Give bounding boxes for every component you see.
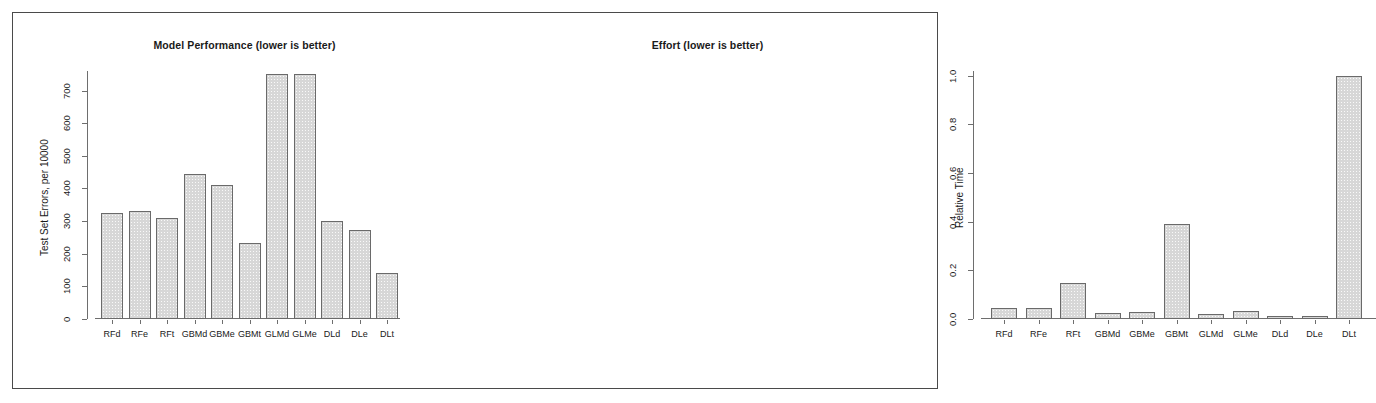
y-axis-tick-label: 300 — [55, 215, 79, 227]
x-axis-tick-label: DLe — [351, 329, 368, 339]
x-axis-tick-mark — [277, 320, 278, 324]
x-axis-tick-mark — [1280, 320, 1281, 324]
bar — [184, 174, 206, 319]
y-axis-tick-mark — [968, 270, 973, 271]
bar — [129, 211, 151, 319]
y-axis-tick-mark — [82, 286, 87, 287]
y-axis-tick-mark — [82, 123, 87, 124]
bar — [239, 243, 261, 319]
bar — [1026, 308, 1052, 319]
bar — [376, 273, 398, 319]
bar — [321, 221, 343, 319]
x-axis-tick-mark — [250, 320, 251, 324]
x-axis-tick-mark — [1211, 320, 1212, 324]
x-axis-tick-label: GBMe — [209, 329, 235, 339]
bar — [1129, 312, 1155, 319]
x-axis-tick-mark — [1315, 320, 1316, 324]
y-axis-tick-mark — [82, 254, 87, 255]
x-axis-tick-mark — [1004, 320, 1005, 324]
chart-panel-effort: Effort (lower is better) Relative Time R… — [476, 13, 939, 388]
chart-title-model-performance: Model Performance (lower is better) — [13, 39, 476, 51]
x-axis-tick-label: GBMd — [1095, 329, 1121, 339]
y-axis-tick-label: 0.8 — [941, 118, 965, 130]
x-axis-tick-label: RFe — [1030, 329, 1047, 339]
bar — [211, 185, 233, 319]
y-axis-tick: 300 — [82, 221, 87, 222]
y-axis-tick: 0.2 — [968, 270, 973, 271]
y-axis-tick: 1.0 — [968, 76, 973, 77]
x-axis-tick-mark — [1349, 320, 1350, 324]
x-axis-tick-label: GLMd — [265, 329, 290, 339]
y-axis-tick: 700 — [82, 91, 87, 92]
y-axis-tick: 100 — [82, 286, 87, 287]
x-axis-tick-mark — [360, 320, 361, 324]
y-axis-tick-mark — [82, 156, 87, 157]
x-axis-tick-mark — [1039, 320, 1040, 324]
y-axis-tick-mark — [968, 319, 973, 320]
y-axis-tick-label: 500 — [55, 150, 79, 162]
bar-group-model-performance: RFdRFeRFtGBMdGBMeGBMtGLMdGLMeDLdDLeDLt — [95, 71, 400, 319]
y-axis-tick-label: 1.0 — [941, 70, 965, 82]
x-axis-tick-label: RFe — [131, 329, 148, 339]
y-axis-tick-label: 0.4 — [941, 216, 965, 228]
y-axis-tick-mark — [968, 124, 973, 125]
x-axis-tick-mark — [140, 320, 141, 324]
y-axis-tick-mark — [82, 319, 87, 320]
bar — [156, 218, 178, 319]
bar — [101, 213, 123, 319]
y-axis-tick: 200 — [82, 254, 87, 255]
y-axis-tick-mark — [968, 222, 973, 223]
bar — [1198, 314, 1224, 319]
y-axis-tick: 600 — [82, 123, 87, 124]
y-axis-tick-mark — [968, 173, 973, 174]
y-axis-tick-label: 700 — [55, 85, 79, 97]
plot-area-effort: RFdRFeRFtGBMdGBMeGBMtGLMdGLMeDLdDLeDLt 0… — [981, 71, 1376, 319]
x-axis-tick-label: GLMe — [1233, 329, 1258, 339]
y-axis-tick-mark — [82, 188, 87, 189]
y-axis-tick: 0.6 — [968, 173, 973, 174]
x-axis-tick-label: RFd — [103, 329, 120, 339]
bar — [294, 74, 316, 319]
bar — [266, 74, 288, 319]
x-axis-tick-label: RFt — [1066, 329, 1081, 339]
y-axis-tick: 0 — [82, 319, 87, 320]
chart-panel-model-performance: Model Performance (lower is better) Test… — [13, 13, 476, 388]
y-axis-tick-mark — [968, 76, 973, 77]
x-axis-tick-mark — [1108, 320, 1109, 324]
bar-group-effort: RFdRFeRFtGBMdGBMeGBMtGLMdGLMeDLdDLeDLt — [981, 71, 1376, 319]
x-axis-tick-mark — [222, 320, 223, 324]
bar — [349, 230, 371, 319]
y-axis-tick: 0.0 — [968, 319, 973, 320]
y-axis-tick-label: 100 — [55, 280, 79, 292]
x-axis-tick-label: GLMe — [292, 329, 317, 339]
x-axis-tick-mark — [332, 320, 333, 324]
bar — [1060, 283, 1086, 319]
x-axis-tick-mark — [112, 320, 113, 324]
x-axis-tick-mark — [1177, 320, 1178, 324]
bar — [991, 308, 1017, 319]
y-axis-line-right — [973, 71, 974, 319]
bar — [1336, 76, 1362, 319]
x-axis-tick-mark — [305, 320, 306, 324]
x-axis-tick-label: DLd — [1272, 329, 1289, 339]
x-axis-tick-label: DLt — [380, 329, 394, 339]
x-axis-tick-label: GBMt — [238, 329, 261, 339]
y-axis-tick: 0.8 — [968, 124, 973, 125]
x-axis-tick-mark — [195, 320, 196, 324]
y-axis-tick-label: 600 — [55, 117, 79, 129]
y-axis-tick-mark — [82, 91, 87, 92]
bar — [1302, 316, 1328, 319]
y-axis-tick-label: 200 — [55, 248, 79, 260]
x-axis-tick-label: GBMt — [1165, 329, 1188, 339]
x-axis-tick-label: RFd — [995, 329, 1012, 339]
y-axis-tick-label: 0.6 — [941, 167, 965, 179]
x-axis-tick-label: DLt — [1342, 329, 1356, 339]
x-axis-tick-label: GLMd — [1199, 329, 1224, 339]
x-axis-tick-label: DLe — [1306, 329, 1323, 339]
x-axis-tick-mark — [1073, 320, 1074, 324]
x-axis-tick-label: DLd — [324, 329, 341, 339]
y-axis-tick-label: 400 — [55, 182, 79, 194]
y-axis-line-left — [87, 71, 88, 319]
y-axis-tick-label: 0 — [55, 313, 79, 325]
x-axis-tick-mark — [387, 320, 388, 324]
